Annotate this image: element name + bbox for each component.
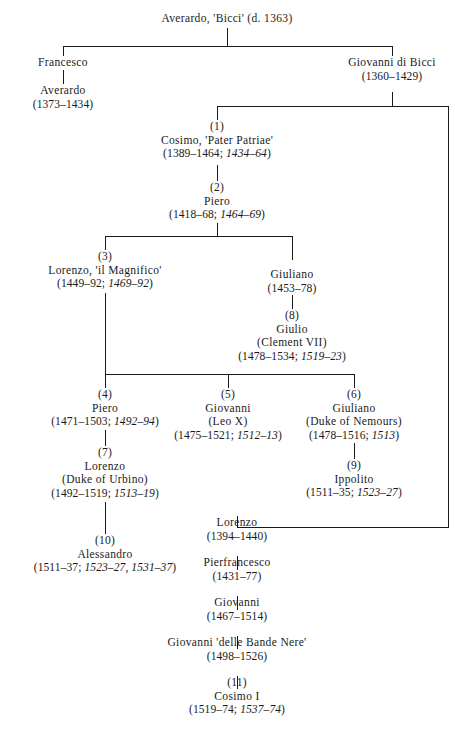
node-number: (4) <box>51 388 159 402</box>
node-name: Piero <box>51 402 159 416</box>
node-name: Averardo, 'Bicci' (d. 1363) <box>161 12 292 26</box>
node-averardo-bicci: Averardo, 'Bicci' (d. 1363) <box>161 12 292 26</box>
node-pierfrancesco: Pierfrancesco (1431–77) <box>203 556 270 583</box>
node-dates: (1360–1429) <box>348 70 436 84</box>
node-dates: (1389–1464; 1434–64) <box>161 147 273 161</box>
connector-vertical-giuliano-1453 <box>292 236 293 260</box>
node-number: (5) <box>174 388 282 402</box>
node-dates: (1471–1503; 1492–94) <box>51 415 159 429</box>
connector-vertical-francesco <box>63 46 64 56</box>
node-ippolito: (9) Ippolito (1511–35; 1523–27) <box>306 459 402 500</box>
node-name: Giovanni <box>174 402 282 416</box>
node-dates: (1431–77) <box>203 570 270 584</box>
node-name: Lorenzo, 'il Magnifico' <box>48 264 161 278</box>
node-number: (9) <box>306 459 402 473</box>
node-subtitle: (Leo X) <box>174 415 282 429</box>
node-piero-2: (2) Piero (1418–68; 1464–69) <box>169 181 265 222</box>
node-subtitle: (Duke of Urbino) <box>51 473 159 487</box>
node-number: (10) <box>34 534 177 548</box>
node-number: (8) <box>238 309 346 323</box>
node-number: (1) <box>161 120 273 134</box>
node-cosimo-pater-patriae: (1) Cosimo, 'Pater Patriae' (1389–1464; … <box>161 120 273 161</box>
node-lorenzo-duke-of-urbino: (7) Lorenzo (Duke of Urbino) (1492–1519;… <box>51 446 159 500</box>
connector-vertical-cosimo <box>217 106 218 120</box>
connector-horizontal-gen1 <box>63 46 392 47</box>
node-name: Lorenzo <box>207 516 268 530</box>
connector-giuliano-giulio <box>292 295 293 309</box>
connector-lorenzo-magnifico-down <box>105 293 106 374</box>
node-name: Cosimo, 'Pater Patriae' <box>161 134 273 148</box>
node-dates: (1511–37; 1523–27, 1531–37) <box>34 561 177 575</box>
node-giovanni-leo-x: (5) Giovanni (Leo X) (1475–1521; 1512–13… <box>174 388 282 442</box>
connector-horizontal-gen3 <box>105 236 292 237</box>
node-name: Giulio <box>238 323 346 337</box>
node-name: Giovanni 'delle Bande Nere' <box>167 636 306 650</box>
node-dates: (1511–35; 1523–27) <box>306 486 402 500</box>
node-giovanni-di-bicci: Giovanni di Bicci (1360–1429) <box>348 56 436 83</box>
node-number: (6) <box>306 388 402 402</box>
connector-vertical-averardo-bicci <box>227 28 228 46</box>
node-name: Francesco <box>38 56 88 70</box>
node-subtitle: (Duke of Nemours) <box>306 415 402 429</box>
node-name: Pierfrancesco <box>203 556 270 570</box>
connector-vertical-lorenzo-magnifico <box>105 236 106 250</box>
node-name: Lorenzo <box>51 460 159 474</box>
node-subtitle: (Clement VII) <box>238 336 346 350</box>
node-lorenzo-1394: Lorenzo (1394–1440) <box>207 516 268 543</box>
node-name: Alessandro <box>34 548 177 562</box>
node-giovanni-delle-bande-nere: Giovanni 'delle Bande Nere' (1498–1526) <box>167 636 306 663</box>
node-dates: (1498–1526) <box>167 650 306 664</box>
connector-horizontal-cadet-branch <box>237 527 449 528</box>
connector-piero4-lorenzo7 <box>105 430 106 446</box>
node-name: Giuliano <box>306 402 402 416</box>
connector-cosimo-piero <box>217 165 218 181</box>
node-dates: (1519–74; 1537–74) <box>189 703 285 717</box>
connector-vertical-giovanni-leo <box>228 374 229 388</box>
connector-horizontal-gen4 <box>105 374 354 375</box>
node-name: Giovanni <box>207 596 268 610</box>
node-lorenzo-il-magnifico: (3) Lorenzo, 'il Magnifico' (1449–92; 14… <box>48 250 161 291</box>
connector-horizontal-gen2 <box>217 106 449 107</box>
node-name: Giovanni di Bicci <box>348 56 436 70</box>
node-giovanni-1467: Giovanni (1467–1514) <box>207 596 268 623</box>
connector-vertical-giuliano-nemours <box>354 374 355 388</box>
node-dates: (1449–92; 1469–92) <box>48 277 161 291</box>
connector-giuliano6-ippolito <box>354 443 355 459</box>
node-dates: (1373–1434) <box>33 98 94 112</box>
connector-spine-cadet-branch <box>448 106 449 527</box>
node-number: (3) <box>48 250 161 264</box>
node-giuliano-1453: Giuliano (1453–78) <box>268 268 317 295</box>
node-dates: (1475–1521; 1512–13) <box>174 429 282 443</box>
node-name: Piero <box>169 195 265 209</box>
node-name: Averardo <box>33 84 94 98</box>
node-name: Giuliano <box>268 268 317 282</box>
node-averardo: Averardo (1373–1434) <box>33 84 94 111</box>
family-tree-diagram: Averardo, 'Bicci' (d. 1363) Francesco Av… <box>0 0 455 735</box>
node-dates: (1418–68; 1464–69) <box>169 208 265 222</box>
node-dates: (1467–1514) <box>207 610 268 624</box>
node-number: (7) <box>51 446 159 460</box>
node-giulio-clement-vii: (8) Giulio (Clement VII) (1478–1534; 151… <box>238 309 346 363</box>
node-number: (2) <box>169 181 265 195</box>
connector-lorenzo7-alessandro <box>105 502 106 534</box>
node-dates: (1478–1516; 1513) <box>306 429 402 443</box>
connector-vertical-giovanni-di-bicci <box>392 46 393 56</box>
connector-francesco-averardo <box>63 70 64 84</box>
node-name: Cosimo I <box>189 690 285 704</box>
node-number: (11) <box>189 676 285 690</box>
connector-piero-down <box>217 223 218 236</box>
node-dates: (1492–1519; 1513–19) <box>51 487 159 501</box>
connector-giovanni-di-bicci-down <box>392 92 393 106</box>
node-francesco: Francesco <box>38 56 88 70</box>
node-alessandro: (10) Alessandro (1511–37; 1523–27, 1531–… <box>34 534 177 575</box>
node-dates: (1394–1440) <box>207 530 268 544</box>
node-giuliano-duke-of-nemours: (6) Giuliano (Duke of Nemours) (1478–151… <box>306 388 402 442</box>
node-dates: (1453–78) <box>268 282 317 296</box>
connector-vertical-piero-4 <box>105 374 106 388</box>
node-piero-4: (4) Piero (1471–1503; 1492–94) <box>51 388 159 429</box>
node-cosimo-i: (11) Cosimo I (1519–74; 1537–74) <box>189 676 285 717</box>
node-name: Ippolito <box>306 473 402 487</box>
node-dates: (1478–1534; 1519–23) <box>238 350 346 364</box>
